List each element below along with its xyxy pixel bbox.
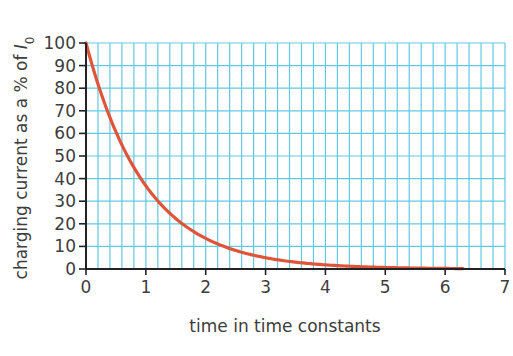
- y-axis-title-text: charging current as a % of: [11, 49, 31, 279]
- x-tick-label: 7: [500, 277, 511, 297]
- x-axis-ticks: 01234567: [81, 269, 511, 297]
- y-tick-label: 30: [54, 191, 76, 211]
- y-axis-title: charging current as a % of I0: [11, 37, 37, 280]
- grid-lines: [86, 43, 505, 269]
- y-tick-label: 20: [54, 214, 76, 234]
- x-tick-label: 6: [440, 277, 451, 297]
- y-tick-label: 0: [65, 259, 76, 279]
- y-tick-label: 50: [54, 146, 76, 166]
- y-tick-label: 70: [54, 101, 76, 121]
- y-tick-label: 60: [54, 123, 76, 143]
- x-tick-label: 3: [260, 277, 271, 297]
- x-tick-label: 0: [81, 277, 92, 297]
- y-axis-title-subscript: 0: [23, 37, 37, 45]
- y-tick-label: 80: [54, 78, 76, 98]
- y-tick-label: 100: [44, 33, 76, 53]
- x-tick-label: 4: [320, 277, 331, 297]
- y-tick-label: 90: [54, 56, 76, 76]
- chart: 01234567 0102030405060708090100 time in …: [0, 0, 513, 356]
- y-axis-ticks: 0102030405060708090100: [44, 33, 86, 279]
- y-tick-label: 40: [54, 169, 76, 189]
- x-tick-label: 2: [200, 277, 211, 297]
- x-tick-label: 1: [140, 277, 151, 297]
- y-tick-label: 10: [54, 236, 76, 256]
- x-tick-label: 5: [380, 277, 391, 297]
- x-axis-title: time in time constants: [189, 316, 380, 336]
